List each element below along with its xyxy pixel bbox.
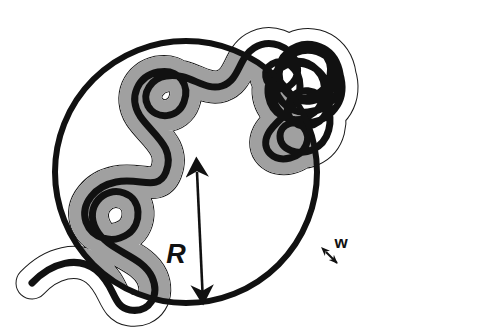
figure-canvas: R w [0,0,477,332]
polymer-blob-figure: R w [0,0,477,332]
radius-label: R [166,239,186,269]
width-label: w [333,233,348,252]
